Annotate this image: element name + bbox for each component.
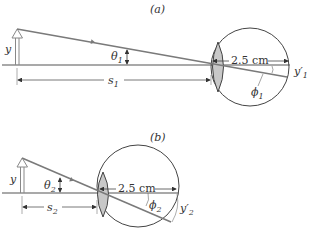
phi1-label: ϕ1 xyxy=(251,86,264,101)
eye-angular-size-diagram: (a) y θ1 s1 2.5 cm ϕ1 xyxy=(0,0,321,234)
phi2-label: ϕ2 xyxy=(149,199,162,214)
image-height-label-a: y′1 xyxy=(293,65,308,80)
part-a-label: (a) xyxy=(150,3,165,16)
theta2-label: θ2 xyxy=(44,179,56,194)
distance-label-a: s1 xyxy=(108,74,119,89)
eye-length-label-a: 2.5 cm xyxy=(231,54,269,67)
part-b: (b) y θ2 s2 2.5 cm ϕ2 xyxy=(2,131,194,227)
eye-length-label-b: 2.5 cm xyxy=(118,182,156,195)
part-b-label: (b) xyxy=(150,131,166,144)
distance-label-b: s2 xyxy=(47,201,58,216)
theta1-label: θ1 xyxy=(111,50,123,65)
object-height-label-a: y xyxy=(4,43,12,56)
object-height-label-b: y xyxy=(9,173,17,186)
part-a: (a) y θ1 s1 2.5 cm ϕ1 xyxy=(2,3,308,106)
eye-lens-a xyxy=(213,42,224,92)
object-arrow-a xyxy=(12,29,23,65)
light-ray-a xyxy=(17,29,287,77)
image-height-label-b: y′2 xyxy=(179,202,194,217)
object-arrow-b xyxy=(17,158,28,193)
